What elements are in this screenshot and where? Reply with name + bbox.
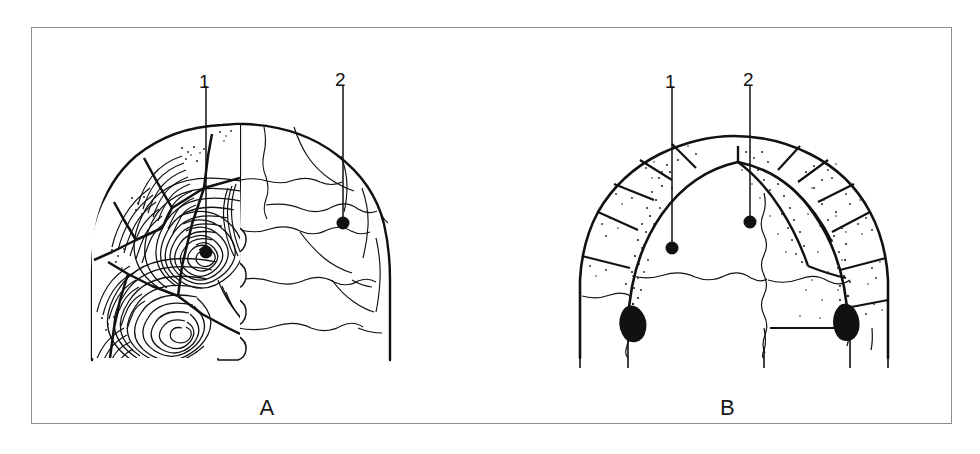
plate-frame: 1 2 A bbox=[31, 27, 952, 424]
panel-b: 1 2 B bbox=[502, 28, 953, 425]
panel-caption-b: B bbox=[502, 395, 953, 421]
callout-dot-b-1 bbox=[666, 242, 679, 255]
panel-a-illustration bbox=[32, 28, 502, 425]
callout-dot-b-2 bbox=[744, 216, 757, 229]
panel-a: 1 2 A bbox=[32, 28, 502, 425]
panel-b-illustration bbox=[502, 28, 953, 425]
left-half-annuli-a bbox=[87, 118, 255, 373]
callout-label-b-1: 1 bbox=[665, 72, 676, 91]
callout-label-b-2: 2 bbox=[743, 70, 754, 89]
figure-root: 1 2 A bbox=[0, 0, 980, 454]
callout-dot-a-1 bbox=[200, 246, 213, 259]
callout-label-a-1: 1 bbox=[199, 72, 210, 91]
panel-caption-a: A bbox=[32, 395, 502, 421]
callout-dot-a-2 bbox=[337, 217, 350, 230]
callout-label-a-2: 2 bbox=[335, 70, 346, 89]
